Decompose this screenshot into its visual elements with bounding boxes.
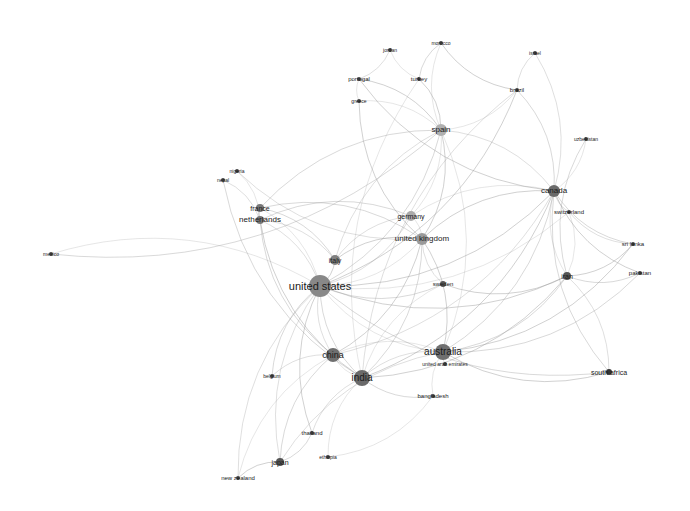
node-label: bangladesh (417, 393, 448, 399)
edge (260, 130, 441, 208)
node-label: mexico (43, 252, 59, 257)
edge (443, 273, 640, 352)
edge (535, 53, 561, 191)
node-label: thailand (301, 430, 322, 436)
node-label: italy (329, 257, 341, 264)
node-label: belgium (263, 374, 281, 379)
edge (419, 43, 441, 79)
edge (333, 239, 422, 355)
edge (422, 191, 554, 239)
edge (51, 130, 441, 257)
node-label: nepal (217, 178, 229, 183)
node-label: pakistan (629, 270, 651, 276)
node-label: netherlands (239, 216, 281, 224)
edge (359, 50, 390, 79)
edge (443, 276, 567, 352)
edge-layer (51, 43, 640, 478)
node-label: united arab emirates (422, 362, 468, 367)
node-label: united kingdom (395, 235, 449, 243)
edge (328, 396, 433, 457)
edge (333, 191, 554, 355)
edge (554, 191, 633, 244)
node-label: germany (397, 213, 424, 220)
node-label: morocco (431, 41, 450, 46)
node-label: turkey (411, 76, 427, 82)
edge (359, 101, 441, 130)
edge (517, 53, 535, 90)
edge (560, 139, 586, 276)
edge (359, 79, 441, 130)
node-label: new zealand (221, 475, 255, 481)
edge (390, 50, 419, 79)
edge (320, 286, 443, 352)
node-label: israel (529, 51, 541, 56)
node-label: ethiopia (319, 455, 337, 460)
edge (51, 238, 320, 286)
node-label: canada (541, 187, 567, 195)
node-label: spain (431, 126, 450, 134)
edge (320, 90, 517, 286)
network-diagram (0, 0, 690, 511)
edge (569, 212, 633, 244)
node-label: australia (424, 347, 462, 357)
node-label: greece (351, 99, 366, 104)
edge (272, 286, 320, 376)
edge (517, 90, 554, 191)
node-label: sri lanka (622, 241, 644, 247)
node-label: india (351, 373, 372, 383)
edge (567, 276, 609, 372)
edge (443, 191, 554, 352)
edge (260, 220, 320, 286)
node-label: united states (289, 281, 351, 292)
node-label: portugal (348, 76, 370, 82)
edge (567, 244, 633, 276)
node-layer (49, 41, 642, 480)
edge (431, 43, 441, 130)
edge (443, 352, 609, 382)
node-label: china (322, 351, 344, 360)
node-label: japan (271, 459, 288, 466)
node-label: france (250, 205, 269, 212)
edge (441, 43, 517, 90)
edge (441, 90, 517, 130)
edge (362, 239, 422, 378)
node-label: sweden (433, 281, 454, 287)
node-label: iran (561, 273, 573, 280)
edge (328, 378, 362, 457)
edge (223, 180, 260, 220)
node-label: nigeria (229, 169, 244, 174)
edge (351, 79, 419, 378)
node-label: switzerland (554, 209, 584, 215)
edge (237, 171, 260, 220)
edge (312, 378, 362, 433)
edge (300, 286, 320, 433)
edge (320, 216, 411, 286)
node-label: brazil (510, 87, 524, 93)
edge (441, 130, 554, 191)
node-label: south africa (591, 369, 627, 376)
node-label: uzbekistan (574, 137, 598, 142)
node-label: jordan (383, 48, 397, 53)
edge (422, 239, 443, 284)
